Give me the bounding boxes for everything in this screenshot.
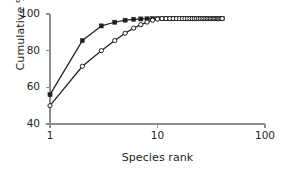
y-tick-label-80: 80 [14, 44, 40, 56]
y-tick-label-40: 40 [14, 117, 40, 129]
x-axis-label: Species rank [50, 151, 265, 164]
x-tick-label-100: 100 [250, 129, 280, 141]
y-tick-label-60: 60 [14, 80, 40, 92]
x-tick-label-1: 1 [35, 129, 65, 141]
x-tick-label-10: 10 [143, 129, 173, 141]
data-series [48, 16, 224, 107]
axis-spines [50, 14, 265, 124]
y-tick-label-100: 100 [14, 7, 40, 19]
chart-figure: Cumulative % Species rank 40 60 80 100 1… [0, 0, 282, 174]
plot-area [0, 0, 282, 174]
